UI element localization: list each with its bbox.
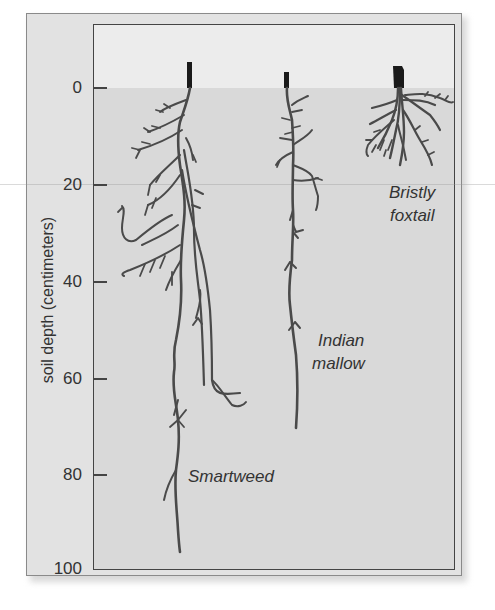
indian-mallow-label-line1: Indian <box>318 330 364 352</box>
smartweed-stem-icon <box>187 62 192 88</box>
indian-mallow-stem-icon <box>284 72 289 88</box>
bristly-foxtail-label-line1: Bristly <box>389 182 435 204</box>
indian-mallow-label-line2: mallow <box>312 353 365 375</box>
root-systems-illustration <box>0 0 495 610</box>
smartweed-label: Smartweed <box>188 466 274 488</box>
bristly-foxtail-root-system <box>366 66 453 165</box>
bristly-foxtail-stem-icon <box>393 66 404 88</box>
bristly-foxtail-label-line2: foxtail <box>390 205 434 227</box>
